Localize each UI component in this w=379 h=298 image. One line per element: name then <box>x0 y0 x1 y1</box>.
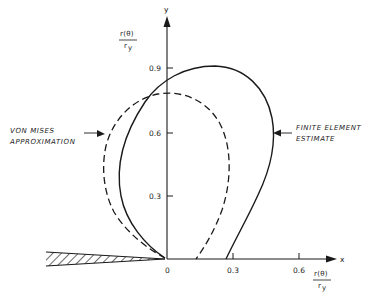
x-axis <box>167 253 337 263</box>
svg-text:ESTIMATE: ESTIMATE <box>296 135 335 143</box>
svg-text:r(θ): r(θ) <box>120 30 134 38</box>
svg-text:APPROXIMATION: APPROXIMATION <box>9 138 76 146</box>
svg-text:FINITE ELEMENT: FINITE ELEMENT <box>296 124 362 132</box>
x-axis-arrow-icon <box>326 256 337 263</box>
y-tick-0.6: 0.6 <box>149 129 161 138</box>
y-axis <box>164 16 174 259</box>
crack-wedge <box>46 252 165 266</box>
y-axis-arrow-icon <box>164 16 171 27</box>
y-tick-0.9: 0.9 <box>149 64 161 73</box>
svg-text:y: y <box>322 284 326 292</box>
y-tick-0.3: 0.3 <box>149 192 161 201</box>
x-tick-0.6: 0.6 <box>293 266 305 275</box>
x-tick-0.3: 0.3 <box>227 266 239 275</box>
plastic-zone-diagram: 0.9 0.6 0.3 0 0.3 0.6 y x r(θ) r y r(θ) … <box>0 0 379 298</box>
finite-element-annotation: FINITE ELEMENT ESTIMATE <box>273 124 362 143</box>
svg-text:r: r <box>124 42 127 50</box>
x-tick-0: 0 <box>165 266 170 275</box>
svg-text:VON MISES: VON MISES <box>10 127 55 135</box>
x-axis-label: r(θ) r y <box>313 270 331 292</box>
svg-text:y: y <box>128 44 132 52</box>
von-mises-annotation: VON MISES APPROXIMATION <box>9 127 105 146</box>
svg-text:r: r <box>318 282 321 290</box>
arrow-right-icon <box>97 130 105 137</box>
x-axis-name: x <box>340 255 345 264</box>
finite-element-curve <box>119 66 273 259</box>
svg-text:r(θ): r(θ) <box>314 270 328 278</box>
von-mises-curve <box>104 93 230 259</box>
y-axis-name: y <box>164 5 169 14</box>
y-axis-label: r(θ) r y <box>119 30 137 52</box>
